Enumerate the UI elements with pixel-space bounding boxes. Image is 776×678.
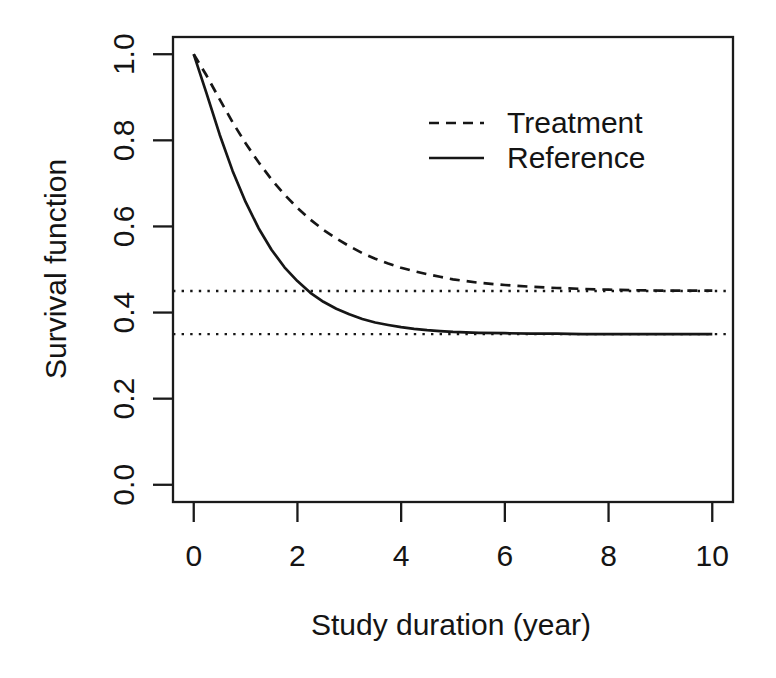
y-tick-label-0.4: 0.4 [107, 292, 140, 334]
y-tick-label-0.6: 0.6 [107, 206, 140, 248]
legend-label-reference: Reference [507, 141, 645, 174]
legend: Treatment Reference [429, 106, 645, 174]
y-axis-title: Survival function [39, 159, 72, 379]
legend-label-treatment: Treatment [507, 106, 643, 139]
survival-curves [194, 54, 713, 334]
curve-reference [194, 54, 713, 334]
y-tick-label-0.2: 0.2 [107, 378, 140, 420]
x-tick-label-0: 0 [185, 539, 202, 572]
asymptote-lines [173, 291, 733, 334]
x-tick-label-2: 2 [289, 539, 306, 572]
x-tick-label-10: 10 [696, 539, 729, 572]
plot-box [173, 37, 733, 502]
y-tick-label-1.0: 1.0 [107, 33, 140, 75]
y-tick-label-0.8: 0.8 [107, 119, 140, 161]
plot-canvas: 02468100.00.20.40.60.81.0 Study duration… [0, 0, 776, 678]
x-tick-label-8: 8 [600, 539, 617, 572]
survival-function-figure: 02468100.00.20.40.60.81.0 Study duration… [0, 0, 776, 678]
x-axis-title: Study duration (year) [311, 608, 591, 641]
x-tick-label-4: 4 [393, 539, 410, 572]
y-tick-label-0.0: 0.0 [107, 464, 140, 506]
plot-border [173, 37, 733, 502]
x-tick-label-6: 6 [497, 539, 514, 572]
